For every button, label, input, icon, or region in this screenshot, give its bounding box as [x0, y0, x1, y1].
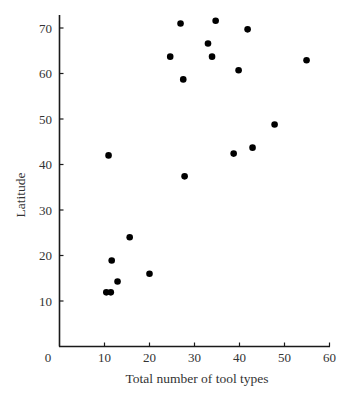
- data-point: [146, 270, 153, 277]
- data-point: [126, 234, 133, 241]
- y-tick-label: 70: [39, 21, 52, 36]
- y-tick-label: 50: [39, 112, 52, 127]
- data-point: [212, 17, 219, 24]
- data-point: [249, 144, 256, 151]
- data-point: [271, 121, 278, 128]
- data-point: [235, 67, 242, 74]
- data-point: [181, 173, 188, 180]
- data-points: [103, 17, 310, 295]
- data-point: [303, 57, 310, 64]
- data-point: [167, 53, 174, 60]
- y-tick-label: 30: [39, 203, 52, 218]
- y-tick-label: 20: [39, 248, 52, 263]
- x-tick-label: 10: [98, 350, 111, 365]
- x-tick-label: 30: [188, 350, 201, 365]
- data-point: [205, 40, 212, 47]
- data-point: [177, 20, 184, 27]
- data-point: [108, 257, 115, 264]
- data-point: [108, 289, 115, 296]
- data-point: [180, 76, 187, 83]
- data-point: [209, 53, 216, 60]
- origin-label: 0: [45, 350, 52, 365]
- y-tick-label: 60: [39, 66, 52, 81]
- x-tick-label: 20: [143, 350, 156, 365]
- y-tick-label: 10: [39, 294, 52, 309]
- x-tick-label: 40: [233, 350, 246, 365]
- x-tick-label: 60: [323, 350, 336, 365]
- data-point: [244, 26, 251, 33]
- y-axis-label: Latitude: [13, 173, 28, 218]
- data-point: [105, 152, 112, 159]
- x-axis-label: Total number of tool types: [125, 371, 268, 386]
- x-tick-label: 50: [278, 350, 291, 365]
- y-tick-label: 40: [39, 157, 52, 172]
- data-point: [230, 150, 237, 157]
- scatter-chart: 102030405060 10203040506070 0 Total numb…: [0, 0, 348, 397]
- data-point: [114, 278, 121, 285]
